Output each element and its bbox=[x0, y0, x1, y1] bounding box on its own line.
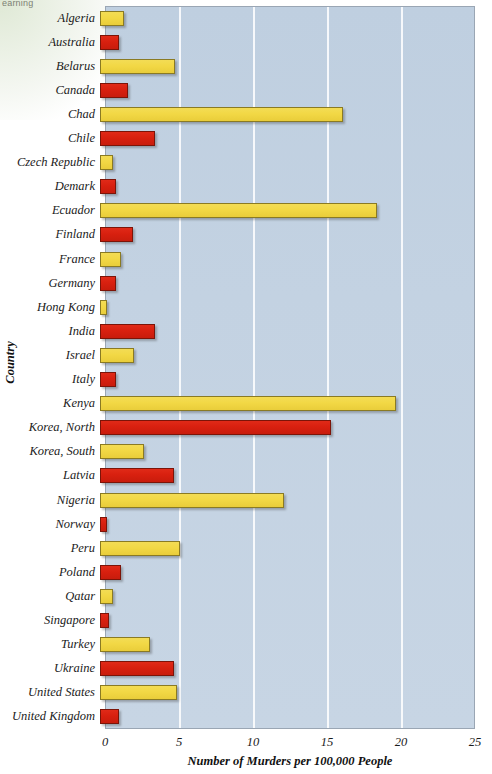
bar-track bbox=[100, 392, 492, 416]
category-label: Peru bbox=[0, 541, 100, 556]
bar-track bbox=[100, 6, 492, 30]
y-axis-title: Country bbox=[3, 333, 18, 393]
bar-latvia bbox=[100, 468, 174, 483]
bar-india bbox=[100, 324, 155, 339]
bar-track bbox=[100, 681, 492, 705]
bar-france bbox=[100, 252, 121, 267]
bar-row: Chad bbox=[0, 102, 492, 126]
category-label: Norway bbox=[0, 517, 100, 532]
bar-track bbox=[100, 488, 492, 512]
bar-ecuador bbox=[100, 203, 377, 218]
bar-row: United States bbox=[0, 681, 492, 705]
bar-row: Peru bbox=[0, 536, 492, 560]
bar-ukraine bbox=[100, 661, 174, 676]
bar-row: Belarus bbox=[0, 54, 492, 78]
x-tick-label-10: 10 bbox=[247, 735, 260, 750]
bar-track bbox=[100, 151, 492, 175]
category-label: Demark bbox=[0, 179, 100, 194]
bar-track bbox=[100, 319, 492, 343]
bar-track bbox=[100, 199, 492, 223]
bar-finland bbox=[100, 227, 133, 242]
bar-demark bbox=[100, 179, 116, 194]
category-label: Nigeria bbox=[0, 493, 100, 508]
bar-poland bbox=[100, 565, 121, 580]
bar-row: Italy bbox=[0, 368, 492, 392]
x-axis-tick-labels: 0510152025 bbox=[0, 735, 492, 753]
bar-track bbox=[100, 127, 492, 151]
bar-germany bbox=[100, 276, 116, 291]
category-label: Germany bbox=[0, 276, 100, 291]
category-label: Canada bbox=[0, 83, 100, 98]
category-label: Australia bbox=[0, 35, 100, 50]
bar-row: Korea, South bbox=[0, 440, 492, 464]
bar-track bbox=[100, 609, 492, 633]
bar-row: Ecuador bbox=[0, 199, 492, 223]
bar-track bbox=[100, 464, 492, 488]
bar-row: Nigeria bbox=[0, 488, 492, 512]
bar-row: Australia bbox=[0, 30, 492, 54]
bar-track bbox=[100, 223, 492, 247]
bar-australia bbox=[100, 35, 119, 50]
bar-row: Finland bbox=[0, 223, 492, 247]
bar-row: Demark bbox=[0, 175, 492, 199]
bar-kenya bbox=[100, 396, 396, 411]
category-label: Korea, North bbox=[0, 420, 100, 435]
bar-row: United Kingdom bbox=[0, 705, 492, 729]
category-label: Algeria bbox=[0, 11, 100, 26]
bar-track bbox=[100, 271, 492, 295]
bar-united-states bbox=[100, 685, 177, 700]
bar-row: Israel bbox=[0, 343, 492, 367]
bar-row: Turkey bbox=[0, 633, 492, 657]
bar-italy bbox=[100, 372, 116, 387]
bar-track bbox=[100, 536, 492, 560]
bar-row: Hong Kong bbox=[0, 295, 492, 319]
category-label: Latvia bbox=[0, 468, 100, 483]
category-label: Singapore bbox=[0, 613, 100, 628]
bar-singapore bbox=[100, 613, 109, 628]
category-label: Ecuador bbox=[0, 203, 100, 218]
bar-row: India bbox=[0, 319, 492, 343]
category-label: Poland bbox=[0, 565, 100, 580]
bar-turkey bbox=[100, 637, 150, 652]
bar-row: Qatar bbox=[0, 584, 492, 608]
x-tick-label-15: 15 bbox=[321, 735, 334, 750]
bar-track bbox=[100, 175, 492, 199]
bar-nigeria bbox=[100, 493, 284, 508]
bar-track bbox=[100, 584, 492, 608]
bar-track bbox=[100, 30, 492, 54]
category-label: Turkey bbox=[0, 637, 100, 652]
category-label: Ukraine bbox=[0, 661, 100, 676]
category-label: United States bbox=[0, 685, 100, 700]
bar-row: Algeria bbox=[0, 6, 492, 30]
bar-row: Ukraine bbox=[0, 657, 492, 681]
bar-rows-container: AlgeriaAustraliaBelarusCanadaChadChileCz… bbox=[0, 6, 492, 729]
bar-row: Poland bbox=[0, 560, 492, 584]
bar-track bbox=[100, 343, 492, 367]
bar-row: Singapore bbox=[0, 609, 492, 633]
bar-track bbox=[100, 368, 492, 392]
bar-korea-south bbox=[100, 444, 144, 459]
bar-track bbox=[100, 102, 492, 126]
category-label: Qatar bbox=[0, 589, 100, 604]
bar-track bbox=[100, 247, 492, 271]
bar-track bbox=[100, 295, 492, 319]
bar-qatar bbox=[100, 589, 113, 604]
x-axis-title: Number of Murders per 100,000 People bbox=[105, 754, 475, 769]
bar-chile bbox=[100, 131, 155, 146]
bar-united-kingdom bbox=[100, 709, 119, 724]
bar-czech-republic bbox=[100, 155, 113, 170]
category-label: Hong Kong bbox=[0, 300, 100, 315]
bar-chad bbox=[100, 107, 343, 122]
bar-row: Canada bbox=[0, 78, 492, 102]
bar-belarus bbox=[100, 59, 175, 74]
bar-track bbox=[100, 705, 492, 729]
bar-norway bbox=[100, 517, 107, 532]
bar-row: Kenya bbox=[0, 392, 492, 416]
bar-track bbox=[100, 78, 492, 102]
bar-row: Czech Republic bbox=[0, 151, 492, 175]
category-label: United Kingdom bbox=[0, 709, 100, 724]
category-label: Chad bbox=[0, 107, 100, 122]
x-tick-label-5: 5 bbox=[176, 735, 182, 750]
bar-row: Chile bbox=[0, 127, 492, 151]
bar-korea-north bbox=[100, 420, 331, 435]
